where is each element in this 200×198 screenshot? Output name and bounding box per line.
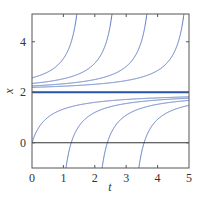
x-tick-label: 5 (186, 171, 192, 185)
y-tick-label: 0 (20, 136, 26, 150)
y-axis-label: x (2, 88, 16, 95)
solution-curve-2 (32, 0, 122, 83)
x-tick-label: 0 (29, 171, 35, 185)
y-tick-label: 4 (20, 35, 26, 49)
x-tick-label: 4 (155, 171, 161, 185)
y-tick-labels: 024 (20, 35, 26, 150)
axis-ticks (32, 14, 189, 168)
solution-curve-1 (32, 0, 87, 78)
solution-curve-4 (32, 0, 189, 87)
y-tick-label: 2 (20, 85, 26, 99)
plot-frame (32, 14, 189, 168)
x-tick-label: 2 (92, 171, 98, 185)
solution-curves-chart: 012345 024 t x (0, 0, 200, 198)
solution-curve-3 (32, 0, 157, 86)
x-tick-label: 3 (123, 171, 129, 185)
x-axis-label: t (108, 180, 112, 194)
solution-curve-7 (92, 100, 189, 198)
x-tick-label: 1 (60, 171, 66, 185)
solution-curve-5 (32, 97, 189, 143)
